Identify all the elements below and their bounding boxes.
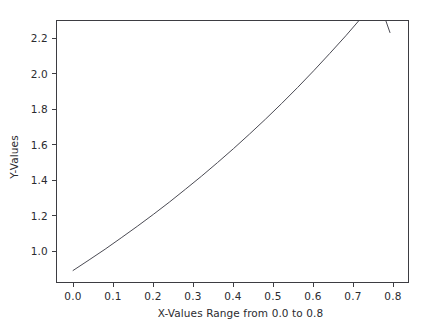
ytick-label: 2.0 [14, 68, 48, 80]
plot-area [56, 20, 409, 283]
xtick-label: 0.5 [253, 290, 293, 302]
xtick-mark [313, 283, 314, 287]
figure-canvas: 2.2 2.0 1.8 1.6 1.4 1.2 1.0 0.0 0.1 0.2 … [0, 0, 425, 329]
xtick-mark [353, 283, 354, 287]
xtick-label: 0.7 [333, 290, 373, 302]
ytick-label: 1.2 [14, 210, 48, 222]
ytick-label: 2.2 [14, 32, 48, 44]
y-axis-label: Y-Values [8, 107, 20, 207]
xtick-mark [193, 283, 194, 287]
xtick-mark [233, 283, 234, 287]
xtick-mark [273, 283, 274, 287]
xtick-label: 0.1 [93, 290, 133, 302]
xtick-label: 0.4 [213, 290, 253, 302]
data-line-svg [57, 21, 408, 282]
xtick-label: 0.3 [173, 290, 213, 302]
xtick-label: 0.2 [133, 290, 173, 302]
xtick-mark [153, 283, 154, 287]
ytick-label: 1.0 [14, 245, 48, 257]
data-series-line [73, 21, 390, 270]
xtick-mark [393, 283, 394, 287]
xtick-label: 0.8 [373, 290, 413, 302]
xtick-label: 0.6 [293, 290, 333, 302]
x-axis-label: X-Values Range from 0.0 to 0.8 [0, 307, 425, 319]
xtick-mark [73, 283, 74, 287]
xtick-mark [113, 283, 114, 287]
xtick-label: 0.0 [53, 290, 93, 302]
